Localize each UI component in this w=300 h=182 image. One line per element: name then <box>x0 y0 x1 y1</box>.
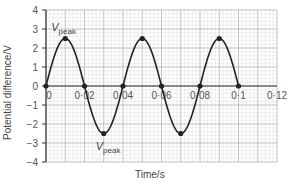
y-tick-label: −2 <box>27 119 39 130</box>
data-point <box>43 83 48 88</box>
x-axis-label: Time/s <box>135 169 165 180</box>
x-tick-label: 0·12 <box>267 90 287 101</box>
x-tick-label: 0·06 <box>151 90 171 101</box>
x-tick-label: 0 <box>46 90 52 101</box>
data-point <box>82 83 87 88</box>
data-point <box>101 131 106 136</box>
y-tick-label: 3 <box>32 24 38 35</box>
y-axis-label: Potential difference/V <box>2 45 13 140</box>
y-tick-label: −3 <box>27 138 39 149</box>
data-point <box>178 131 183 136</box>
data-point <box>120 83 125 88</box>
data-point <box>159 83 164 88</box>
data-point <box>236 83 241 88</box>
y-tick-label: −1 <box>27 100 39 111</box>
data-point <box>140 36 145 41</box>
y-tick-label: 0 <box>32 81 38 92</box>
y-tick-label: 4 <box>32 5 38 16</box>
x-tick-label: 0·08 <box>190 90 210 101</box>
chart: 43210−1−2−3−400·020·040·060·080·10·12 Vp… <box>0 0 300 182</box>
y-tick-label: −4 <box>27 157 39 168</box>
data-point <box>197 83 202 88</box>
vpeak-label: Vpeak <box>96 140 122 155</box>
data-point <box>63 36 68 41</box>
data-point <box>217 36 222 41</box>
x-tick-label: 0·1 <box>231 90 246 101</box>
x-tick-label: 0·02 <box>74 90 94 101</box>
x-tick-label: 0·04 <box>113 90 133 101</box>
y-tick-label: 1 <box>32 62 38 73</box>
y-tick-label: 2 <box>32 43 38 54</box>
